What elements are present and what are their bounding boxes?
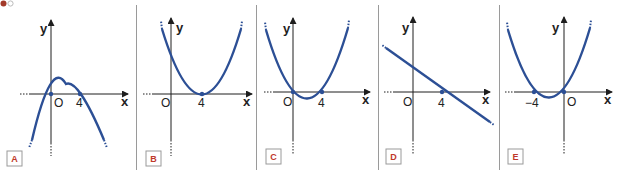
panel-c: y x O 4 C xyxy=(264,18,370,164)
panel-b: y x O 4 B xyxy=(143,18,252,166)
tick-label-4: 4 xyxy=(198,96,205,110)
root-point xyxy=(49,92,53,96)
y-axis-label: y xyxy=(552,20,560,35)
y-axis-label: y xyxy=(283,21,291,36)
curve-dotted-ends xyxy=(507,20,591,30)
tick-label-origin: O xyxy=(161,96,170,110)
panel-tag-label: C xyxy=(270,152,277,162)
root-point xyxy=(440,90,444,94)
panel-d: y x O 4 D xyxy=(382,17,494,164)
panel-tag-label: A xyxy=(11,154,18,164)
tick-label-origin: O xyxy=(567,95,576,109)
tick-label-origin: O xyxy=(283,95,292,109)
panel-tag-d: D xyxy=(386,149,401,164)
curve xyxy=(162,29,241,95)
curve-dotted-ends xyxy=(265,20,349,30)
tick-label-minus-4: −4 xyxy=(525,96,539,110)
root-point xyxy=(562,90,566,94)
graphs-figure: y x O 4 A y x O 4 B y x xyxy=(0,0,617,177)
x-axis-label: x xyxy=(121,94,129,109)
x-axis-label: x xyxy=(604,92,612,107)
tick-label-4: 4 xyxy=(318,96,325,110)
root-point xyxy=(320,90,324,94)
curve xyxy=(266,28,348,99)
root-point xyxy=(291,90,295,94)
curve-dotted-ends xyxy=(161,21,242,29)
tick-label-4: 4 xyxy=(438,96,445,110)
panel-separators xyxy=(137,5,500,170)
curve xyxy=(508,28,590,98)
tick-label-origin: O xyxy=(403,95,412,109)
filled-dot-icon xyxy=(1,1,7,7)
panel-tag-e: E xyxy=(508,149,523,164)
curve-dotted-ends xyxy=(29,140,107,148)
panel-e: y x −4 O E xyxy=(505,17,612,164)
panel-tag-a: A xyxy=(7,151,22,166)
tick-label-origin: O xyxy=(54,96,63,110)
y-axis-label: y xyxy=(402,20,410,35)
x-axis-label: x xyxy=(362,92,370,107)
panel-tag-c: C xyxy=(266,149,281,164)
tick-label-4: 4 xyxy=(76,96,83,110)
line-graph xyxy=(386,48,490,122)
header-bullets xyxy=(1,1,14,7)
root-point xyxy=(532,90,536,94)
y-axis-label: y xyxy=(40,21,48,36)
panel-tag-b: B xyxy=(146,151,161,166)
y-axis-label: y xyxy=(176,20,184,35)
hollow-dot-icon xyxy=(8,1,13,6)
curve xyxy=(32,78,104,140)
x-axis-label: x xyxy=(243,94,251,109)
panel-a: y x O 4 A xyxy=(7,20,129,166)
panel-tag-label: B xyxy=(150,154,157,164)
panel-tag-label: E xyxy=(512,152,518,162)
panel-tag-label: D xyxy=(390,152,397,162)
x-axis-label: x xyxy=(482,92,490,107)
